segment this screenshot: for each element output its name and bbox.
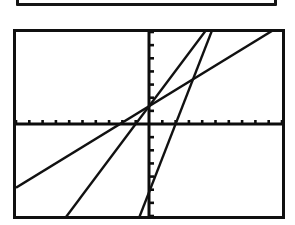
line-graph-svg: [16, 32, 282, 216]
graphing-calculator-screen[interactable]: [13, 29, 285, 219]
plot-area[interactable]: [16, 32, 282, 216]
partial-box-above: [16, 0, 277, 6]
